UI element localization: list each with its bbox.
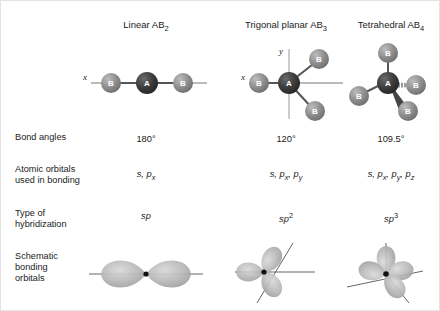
hybridization-linear: sp	[81, 211, 211, 221]
atom-b-lower-right-label: B	[312, 107, 318, 116]
atom-b-left-label: B	[256, 79, 262, 88]
atomic-orbitals-tetrahedral: s, px, py, pz	[341, 169, 440, 182]
orbital-center-node	[143, 271, 148, 276]
atom-a-center-label: A	[144, 79, 150, 88]
atom-b-right-label: B	[413, 81, 419, 90]
atom-a-center-label: A	[286, 79, 292, 88]
atomic-orbitals-trigonal-base2: , p	[288, 169, 298, 179]
atomic-orbitals-trigonal-planar: s, px, py	[216, 169, 356, 182]
atomic-orbitals-linear-sub-x: x	[152, 173, 156, 182]
hybridization-trigonal-base: sp	[279, 214, 289, 224]
column-header-trigonal-planar-subscript: 3	[323, 24, 327, 33]
schematic-orbitals-trigonal-planar	[229, 241, 339, 311]
hybridization-tetrahedral: sp3	[341, 211, 440, 224]
column-header-linear-subscript: 2	[165, 24, 169, 33]
hybridization-trigonal-planar: sp2	[216, 211, 356, 224]
atom-b-left-label: B	[108, 79, 114, 88]
column-header-trigonal-planar-text: Trigonal planar AB	[245, 19, 323, 30]
atom-b-right-label: B	[180, 79, 186, 88]
atomic-orbitals-tetrahedral-base3: , p	[400, 169, 410, 179]
bond-hashed-right	[398, 83, 405, 88]
axis-label-x: x	[241, 72, 245, 82]
bond-angle-linear: 180°	[81, 134, 211, 144]
schematic-orbitals-linear	[81, 249, 211, 303]
column-header-tetrahedral-subscript: 4	[420, 24, 424, 33]
atomic-orbitals-linear-base: s, p	[137, 169, 152, 179]
column-header-tetrahedral-text: Tetrahedral AB	[358, 19, 420, 30]
atomic-orbitals-tetrahedral-base2: , p	[386, 169, 396, 179]
orbital-lobe-left	[236, 263, 264, 282]
hybridization-tetrahedral-base: sp	[384, 214, 394, 224]
bond-angle-trigonal-planar: 120°	[216, 134, 356, 144]
atom-b-upper-right-label: B	[316, 55, 322, 64]
atom-b-top-label: B	[385, 49, 391, 58]
orbital-center-node	[383, 271, 389, 277]
column-header-linear-text: Linear AB	[123, 19, 164, 30]
structure-diagram-trigonal-planar: y x B B B A	[241, 41, 351, 130]
hybridization-linear-base: sp	[141, 211, 151, 221]
orbital-center-node	[261, 269, 266, 274]
column-header-trigonal-planar: Trigonal planar AB3	[216, 19, 356, 33]
atomic-orbitals-linear: s, px	[81, 169, 211, 182]
atom-a-center-label: A	[385, 79, 391, 88]
hybridization-tetrahedral-exponent: 3	[394, 211, 398, 220]
axis-label-x: x	[82, 72, 87, 82]
axis-label-y: y	[278, 46, 283, 56]
orbital-lobe-right	[146, 260, 191, 287]
atomic-orbitals-trigonal-sub-y: y	[299, 173, 303, 182]
hybridization-trigonal-exponent: 2	[289, 211, 293, 220]
hybridization-summary-figure: Linear AB2 Trigonal planar AB3 Tetrahedr…	[0, 0, 440, 311]
bond-angle-tetrahedral: 109.5°	[341, 134, 440, 144]
structure-diagram-linear: x B A B	[79, 56, 214, 115]
structure-diagram-tetrahedral: B B B B A	[346, 41, 436, 130]
atomic-orbitals-tetrahedral-base: s, p	[368, 169, 383, 179]
atomic-orbitals-trigonal-base: s, p	[270, 169, 285, 179]
column-header-tetrahedral: Tetrahedral AB4	[341, 19, 440, 33]
atom-b-left-label: B	[356, 92, 362, 101]
orbital-lobe-left	[101, 260, 146, 287]
atomic-orbitals-tetrahedral-sub-z: z	[411, 173, 415, 182]
atom-b-lower-right-label: B	[405, 107, 411, 116]
column-header-linear: Linear AB2	[81, 19, 211, 33]
schematic-orbitals-tetrahedral	[339, 241, 439, 311]
